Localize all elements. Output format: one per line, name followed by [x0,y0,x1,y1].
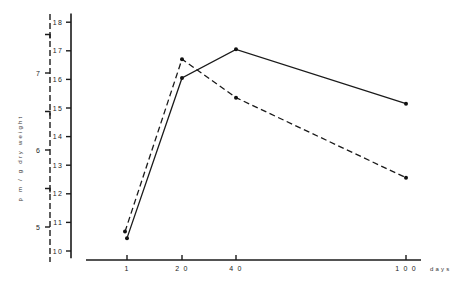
data-point-solid [234,47,238,51]
series-line-dashed [125,59,406,231]
right-y-tick-label: 16 [53,76,63,83]
right-y-tick-label: 17 [53,47,63,54]
left-y-tick-label: 5 [36,224,41,231]
right-y-tick-label: 14 [53,133,63,140]
right-y-tick-label: 10 [53,248,63,255]
left-y-tick-label: 6 [36,147,41,154]
right-y-tick-label: 11 [53,219,63,226]
left-y-tick-label: 7 [36,70,41,77]
right-y-tick-label: 18 [53,19,63,26]
series-group [123,47,408,240]
data-point-solid [404,102,408,106]
line-chart: 10111213141516171856712 04 01 0 0 p m / … [0,0,467,285]
data-point-dashed [234,96,238,100]
left-y-minor-tick [45,112,50,116]
series-line-solid [127,49,406,238]
right-y-tick-label: 15 [53,105,63,112]
x-tick-label: 2 0 [175,265,188,272]
data-point-dashed [123,230,127,234]
data-point-solid [180,76,184,80]
left-y-minor-tick [45,35,50,39]
x-axis-title: days [430,266,451,272]
right-y-tick-label: 13 [53,162,63,169]
x-tick-label: 1 0 0 [395,265,417,272]
x-tick-label: 1 [124,265,129,272]
axes: 10111213141516171856712 04 01 0 0 [36,14,421,272]
y-axis-title: p m / g dry weight [17,115,23,202]
data-point-solid [125,236,129,240]
data-point-dashed [180,57,184,61]
data-point-dashed [404,176,408,180]
left-y-minor-tick [45,189,50,193]
right-y-tick-label: 12 [53,190,63,197]
x-tick-label: 4 0 [229,265,242,272]
